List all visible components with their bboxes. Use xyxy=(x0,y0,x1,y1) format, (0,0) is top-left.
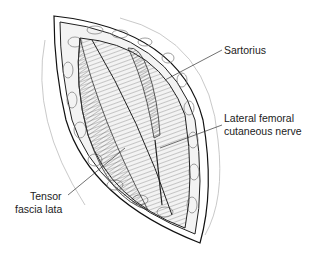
label-lfcn-line2: cutaneous nerve xyxy=(224,125,302,137)
label-tfl-line2: fascia lata xyxy=(15,203,62,215)
label-tfl-line1: Tensor xyxy=(30,190,62,202)
label-lfcn-line1: Lateral femoral xyxy=(224,112,294,124)
anatomical-diagram: Sartorius Lateral femoral cutaneous nerv… xyxy=(0,0,329,254)
label-sartorius: Sartorius xyxy=(224,44,266,56)
